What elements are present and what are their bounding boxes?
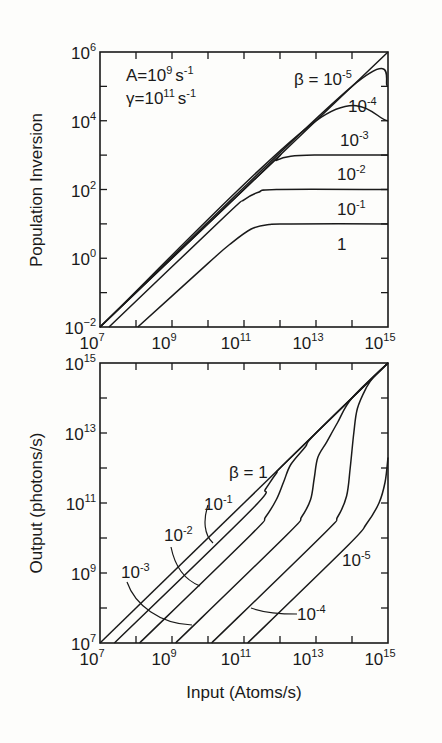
leader-beta-1e-2 (171, 547, 200, 586)
top-y-axis-title: Population Inversion (27, 113, 46, 267)
top-y-tick-label: 102 (71, 179, 96, 201)
top-x-tick-label: 1011 (221, 331, 251, 353)
bottom-label-beta-1e-3: 10-3 (121, 561, 150, 582)
bottom-curves (100, 363, 388, 643)
population-inversion-plot: 10710910111013101510−2100102104106 Popul… (27, 41, 396, 353)
bottom-label-beta-1e-4: 10-4 (297, 603, 326, 624)
annotation-gamma: γ=1011s-1 (126, 87, 196, 108)
bottom-series-line-2 (140, 363, 388, 643)
bottom-x-axis-title: Input (Atoms/s) (186, 683, 301, 702)
top-x-tick-label: 1015 (364, 331, 395, 353)
bottom-label-beta-1e-1: 10-1 (204, 493, 233, 514)
top-label-beta-1e-2: 10-2 (337, 163, 366, 184)
bottom-series-line-4 (212, 363, 388, 643)
top-label-beta-1: 1 (337, 235, 346, 254)
leader-beta-1e-3 (127, 582, 192, 625)
figure: 10710910111013101510−2100102104106 Popul… (0, 0, 442, 743)
bottom-label-beta-1e-2: 10-2 (164, 524, 193, 545)
bottom-label-beta-1: β = 1 (229, 463, 268, 482)
bottom-y-tick-label: 1013 (65, 422, 96, 444)
bottom-label-beta-1e-5: 10-5 (342, 549, 371, 570)
bottom-y-tick-label: 109 (71, 562, 96, 584)
bottom-x-tick-label: 1011 (221, 647, 251, 669)
bottom-y-tick-label: 1011 (66, 492, 96, 514)
top-x-tick-label: 1013 (292, 331, 323, 353)
top-label-beta-1e-3: 10-3 (340, 129, 369, 150)
bottom-y-axis-title: Output (photons/s) (27, 433, 46, 574)
bottom-tick-labels: 107109101110131015107109101110131015 (65, 352, 396, 669)
leader-beta-1e-4 (251, 608, 297, 614)
bottom-x-tick-label: 1015 (364, 647, 395, 669)
top-label-beta-1e-1: 10-1 (337, 198, 366, 219)
top-series-line-5 (138, 224, 388, 327)
bottom-x-tick-label: 109 (151, 647, 176, 669)
top-label-beta-1e-4: 10-4 (348, 95, 377, 116)
top-label-beta-1e-5: β = 10-5 (294, 68, 352, 89)
top-y-tick-label: 104 (71, 110, 96, 132)
top-y-tick-label: 106 (71, 41, 96, 63)
top-y-tick-label: 100 (71, 247, 96, 269)
bottom-y-tick-label: 1015 (65, 352, 96, 374)
bottom-x-tick-label: 1013 (292, 647, 323, 669)
annotation-A: A=109s-1 (126, 64, 194, 85)
top-x-tick-label: 109 (151, 331, 176, 353)
output-plot: 107109101110131015107109101110131015 Out… (27, 352, 396, 702)
